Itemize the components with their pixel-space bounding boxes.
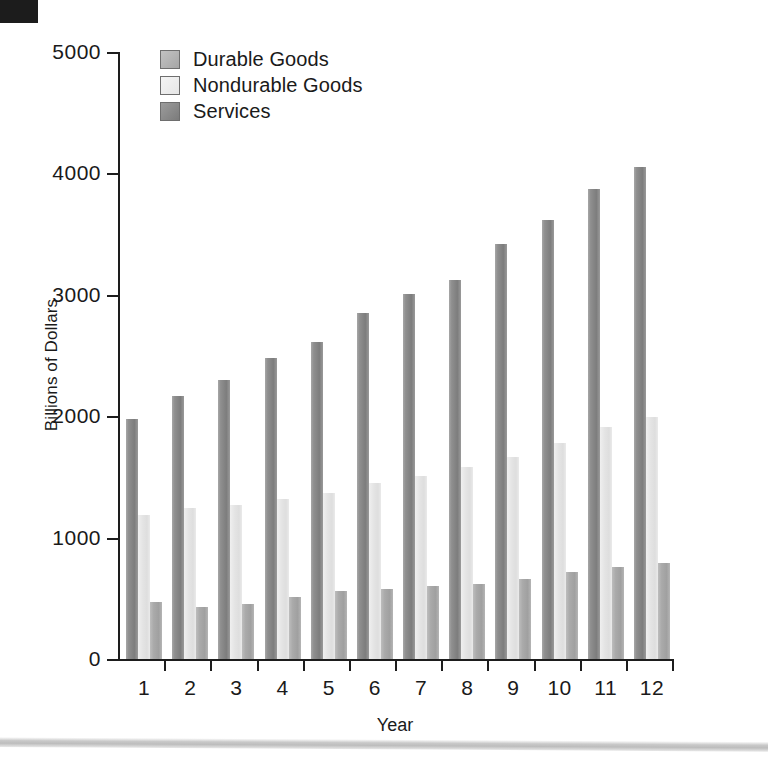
x-tick-label: 2 [184, 676, 196, 700]
bar-services [218, 380, 230, 659]
x-tick-label: 7 [415, 676, 427, 700]
bar-nondurable-goods [230, 505, 242, 659]
x-tick-mark [210, 661, 212, 671]
bar-group [403, 52, 439, 659]
page-bottom-rule [0, 737, 768, 752]
bar-services [588, 189, 600, 659]
bar-group [495, 52, 531, 659]
bar-chart-figure: Billions of Dollars 01000200030004000500… [0, 0, 768, 735]
y-tick-mark [107, 173, 118, 175]
x-tick-label: 9 [507, 676, 519, 700]
legend-label: Services [193, 100, 271, 123]
bar-nondurable-goods [646, 417, 658, 659]
bar-durable-goods [150, 602, 162, 659]
bar-group [357, 52, 393, 659]
bar-durable-goods [519, 579, 531, 659]
bar-group [218, 52, 254, 659]
y-tick-label: 1000 [52, 526, 101, 550]
bar-durable-goods [658, 563, 670, 659]
bar-services [172, 396, 184, 659]
y-tick-label: 5000 [52, 40, 101, 64]
x-tick-label: 1 [138, 676, 150, 700]
y-tick-mark [107, 538, 118, 540]
bar-group [311, 52, 347, 659]
bar-durable-goods [242, 604, 254, 659]
x-tick-mark [303, 661, 305, 671]
y-tick-label: 2000 [52, 404, 101, 428]
x-tick-mark [441, 661, 443, 671]
y-tick-mark [107, 659, 118, 661]
bar-durable-goods [335, 591, 347, 659]
bar-group [542, 52, 578, 659]
x-tick-mark [257, 661, 259, 671]
x-tick-mark [164, 661, 166, 671]
x-tick-mark [672, 661, 674, 671]
bar-nondurable-goods [415, 476, 427, 659]
bar-group [126, 52, 162, 659]
y-axis-line [118, 52, 120, 661]
legend-swatch-icon [160, 102, 180, 121]
bar-services [403, 294, 415, 659]
bar-group [449, 52, 485, 659]
x-tick-label: 11 [594, 676, 617, 700]
bar-services [265, 358, 277, 659]
legend-swatch-icon [160, 76, 180, 95]
bar-nondurable-goods [554, 443, 566, 659]
y-tick-mark [107, 416, 118, 418]
bar-group [265, 52, 301, 659]
bar-services [311, 342, 323, 659]
y-tick-mark [107, 52, 118, 54]
x-tick-mark [534, 661, 536, 671]
plot-area: 010002000300040005000 123456789101112 Ye… [118, 52, 672, 661]
bar-durable-goods [427, 586, 439, 659]
bar-durable-goods [381, 589, 393, 659]
bar-services [634, 167, 646, 659]
legend-item: Services [160, 98, 363, 124]
bar-services [357, 313, 369, 659]
bar-services [542, 220, 554, 659]
x-tick-mark [626, 661, 628, 671]
bar-services [495, 244, 507, 659]
x-tick-label: 10 [547, 676, 571, 700]
bar-durable-goods [566, 572, 578, 659]
chart-legend: Durable GoodsNondurable GoodsServices [160, 46, 363, 124]
bar-group [634, 52, 670, 659]
bar-durable-goods [612, 567, 624, 659]
x-tick-label: 3 [230, 676, 242, 700]
x-tick-label: 4 [276, 676, 288, 700]
x-tick-mark [349, 661, 351, 671]
x-tick-mark [487, 661, 489, 671]
y-tick-label: 4000 [52, 161, 101, 185]
x-tick-label: 12 [640, 676, 664, 700]
x-axis-title: Year [118, 715, 672, 736]
x-tick-mark [395, 661, 397, 671]
bar-nondurable-goods [369, 483, 381, 659]
bar-nondurable-goods [507, 457, 519, 659]
bar-nondurable-goods [277, 499, 289, 659]
bar-nondurable-goods [461, 467, 473, 659]
legend-label: Nondurable Goods [193, 74, 363, 97]
bar-group [588, 52, 624, 659]
bar-nondurable-goods [138, 515, 150, 659]
bar-durable-goods [289, 597, 301, 659]
bar-nondurable-goods [184, 508, 196, 659]
legend-swatch-icon [160, 50, 180, 69]
x-tick-label: 8 [461, 676, 473, 700]
bar-services [126, 419, 138, 659]
x-tick-mark [580, 661, 582, 671]
bar-nondurable-goods [600, 427, 612, 659]
bar-services [449, 280, 461, 659]
bar-group [172, 52, 208, 659]
bar-durable-goods [473, 584, 485, 659]
x-tick-label: 5 [323, 676, 335, 700]
y-tick-label: 0 [89, 647, 101, 671]
y-tick-mark [107, 295, 118, 297]
legend-item: Durable Goods [160, 46, 363, 72]
x-tick-label: 6 [369, 676, 381, 700]
legend-item: Nondurable Goods [160, 72, 363, 98]
bar-durable-goods [196, 607, 208, 659]
bar-nondurable-goods [323, 493, 335, 659]
y-tick-label: 3000 [52, 283, 101, 307]
legend-label: Durable Goods [193, 48, 329, 71]
